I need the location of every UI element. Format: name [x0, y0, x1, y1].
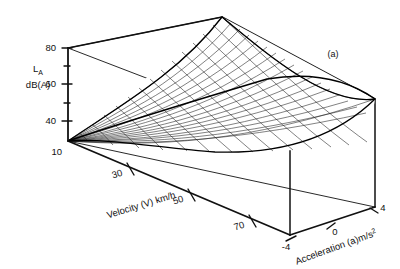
panel-label: (a)	[328, 49, 339, 59]
velocity-tick-30: 30	[110, 167, 123, 181]
figure-container: 80 60 40 LA dB(A) 10 30 50 70 Velocity (…	[0, 0, 400, 269]
acceleration-tick-4: 4	[380, 202, 385, 213]
surface-mesh	[68, 17, 375, 152]
acceleration-tick-0: 0	[332, 226, 337, 237]
acceleration-tick-minus4: -4	[282, 241, 290, 252]
z-axis-label-db: dB(A)	[26, 79, 50, 90]
velocity-axis-label: Velocity (V) km/h	[105, 189, 176, 220]
vertical-axis: 80 60 40 LA dB(A)	[26, 42, 72, 141]
velocity-tick-70: 70	[232, 219, 245, 233]
z-axis-label-subscript-a: A	[38, 69, 43, 76]
velocity-tick-10: 10	[51, 146, 62, 157]
z-tick-80: 80	[45, 42, 56, 53]
surface-plot: 80 60 40 LA dB(A) 10 30 50 70 Velocity (…	[0, 0, 400, 269]
z-axis-label-la: LA	[33, 63, 43, 76]
acceleration-axis-label-superscript: 2	[371, 227, 377, 235]
z-tick-40: 40	[45, 115, 56, 126]
acceleration-axis: -4 0 4 Acceleration (a)m/s2	[282, 202, 386, 267]
